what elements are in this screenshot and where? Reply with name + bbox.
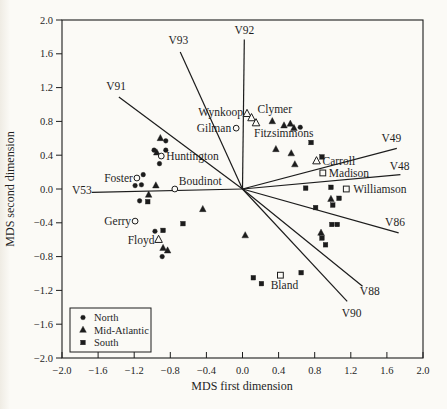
vector-V86: [243, 189, 399, 233]
delegate-marker-bland: [278, 272, 284, 278]
delegate-label-foster: Foster: [104, 172, 133, 184]
legend: NorthMid-AtlanticSouth: [70, 308, 151, 352]
y-tick-label: −2.0: [34, 353, 53, 364]
data-point-south: [309, 140, 314, 145]
legend-label-north: North: [94, 312, 119, 323]
y-tick-label: 2.0: [40, 15, 53, 26]
data-point-south: [323, 242, 328, 247]
delegate-label-huntington: Huntington: [166, 150, 219, 163]
legend-marker-north: [81, 315, 86, 320]
vector-label-V88: V88: [360, 285, 380, 297]
x-tick-label: 2.0: [416, 365, 429, 376]
x-tick-label: 0.8: [308, 365, 321, 376]
delegate-label-madison: Madison: [329, 167, 370, 179]
vector-label-V92: V92: [234, 24, 254, 36]
data-point-south: [303, 186, 308, 191]
delegate-marker-wynkoop: [243, 109, 251, 116]
y-tick-label: 0.4: [40, 150, 54, 161]
data-point-mid-atlantic: [242, 232, 249, 238]
delegate-marker-huntington: [158, 153, 164, 159]
delegate-label-boudinot: Boudinot: [179, 175, 223, 187]
y-tick-label: −0.8: [34, 251, 53, 262]
delegate-marker-madison: [320, 170, 326, 176]
data-point-south: [335, 222, 340, 227]
data-point-south: [313, 205, 318, 210]
y-tick-label: 1.6: [40, 48, 53, 59]
delegate-label-carroll: Carroll: [323, 155, 356, 167]
x-tick-label: −2.0: [52, 365, 71, 376]
data-point-mid-atlantic: [328, 195, 335, 201]
data-point-north: [137, 199, 142, 204]
x-tick-label: 1.2: [344, 365, 357, 376]
x-tick-label: −1.6: [89, 365, 108, 376]
x-axis-title: MDS first dimension: [191, 379, 292, 393]
data-point-south: [330, 222, 335, 227]
vector-label-V93: V93: [169, 34, 189, 46]
mds-plot-canvas: −2.0−1.6−1.2−0.8−0.40.00.40.81.21.62.0−2…: [0, 0, 447, 409]
delegate-marker-carroll: [313, 157, 321, 164]
y-tick-label: 0.8: [40, 116, 53, 127]
delegate-marker-foster: [134, 175, 140, 181]
x-tick-label: 1.6: [380, 365, 393, 376]
delegate-label-floyd: Floyd: [128, 234, 155, 247]
data-point-north: [160, 254, 165, 259]
y-tick-label: 0.0: [40, 184, 53, 195]
data-point-mid-atlantic: [318, 229, 325, 235]
mds-scatterplot-figure: −2.0−1.6−1.2−0.8−0.40.00.40.81.21.62.0−2…: [0, 0, 447, 409]
delegate-label-bland: Bland: [271, 279, 299, 291]
delegate-label-gilman: Gilman: [197, 122, 232, 134]
data-point-south: [161, 228, 166, 233]
data-point-south: [181, 221, 186, 226]
delegate-label-clymer: Clymer: [258, 103, 293, 116]
vector-V93: [180, 52, 242, 189]
x-tick-label: −0.8: [161, 365, 180, 376]
delegate-label-gerry: Gerry: [104, 215, 131, 228]
data-point-south: [299, 270, 304, 275]
data-point-south: [330, 203, 335, 208]
delegate-marker-gerry: [132, 218, 138, 224]
vector-label-V90: V90: [342, 307, 362, 319]
y-axis-title: MDS second dimension: [3, 131, 17, 246]
legend-marker-south: [81, 340, 86, 345]
data-point-mid-atlantic: [153, 182, 160, 188]
data-point-mid-atlantic: [292, 161, 299, 167]
data-point-mid-atlantic: [269, 118, 276, 124]
delegate-label-williamson: Williamson: [353, 183, 406, 195]
y-tick-label: −1.2: [34, 285, 53, 296]
data-point-mid-atlantic: [160, 244, 167, 250]
vector-label-V53: V53: [72, 184, 92, 196]
legend-label-south: South: [94, 337, 119, 348]
data-point-south: [337, 196, 342, 201]
data-point-south: [259, 281, 264, 286]
data-point-north: [133, 183, 138, 188]
delegate-marker-gilman: [233, 125, 239, 131]
delegate-marker-floyd: [155, 235, 163, 242]
legend-label-mid-atlantic: Mid-Atlantic: [94, 325, 149, 336]
data-point-mid-atlantic: [145, 191, 152, 197]
data-point-north: [139, 182, 144, 187]
data-point-mid-atlantic: [199, 205, 206, 211]
plot-render-root: −2.0−1.6−1.2−0.8−0.40.00.40.81.21.62.0−2…: [34, 15, 430, 377]
data-point-south: [329, 185, 334, 190]
data-point-south: [251, 275, 256, 280]
vector-V53: [92, 189, 243, 192]
y-tick-label: −0.4: [34, 217, 54, 228]
x-tick-label: 0.4: [272, 365, 286, 376]
data-point-south: [145, 199, 150, 204]
data-point-mid-atlantic: [287, 120, 294, 126]
x-tick-label: −0.4: [197, 365, 217, 376]
y-tick-label: −1.6: [34, 319, 53, 330]
vector-label-V91: V91: [106, 80, 126, 92]
vector-label-V48: V48: [390, 160, 410, 172]
x-tick-label: 0.0: [236, 365, 249, 376]
delegate-marker-williamson: [343, 186, 349, 192]
data-point-north: [163, 139, 168, 144]
y-tick-label: 1.2: [40, 82, 53, 93]
x-tick-label: −1.2: [125, 365, 144, 376]
delegate-marker-boudinot: [172, 186, 178, 192]
data-point-mid-atlantic: [288, 150, 295, 156]
delegate-label-fitzsimmons: Fitzsimmons: [254, 127, 314, 139]
data-point-north: [157, 161, 162, 166]
data-point-south: [320, 236, 325, 241]
data-point-north: [141, 172, 146, 177]
